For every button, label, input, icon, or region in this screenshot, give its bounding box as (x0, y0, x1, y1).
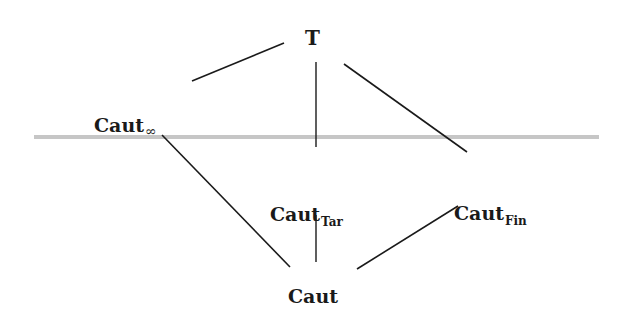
node-caut-label: Caut (288, 285, 338, 307)
node-caut-infinity: Caut∞ (94, 116, 157, 135)
node-caut-infinity-subscript: ∞ (145, 123, 157, 139)
node-caut-fin: CautFin (454, 204, 527, 223)
edge-caut-fin-caut (357, 206, 458, 269)
node-caut-tar-label: Caut (270, 203, 320, 225)
node-top-label: T (305, 26, 320, 50)
node-caut-fin-subscript: Fin (505, 214, 527, 228)
edge-caut-inf-caut (162, 135, 290, 267)
node-caut-tar: CautTar (270, 205, 343, 224)
node-caut-tar-subscript: Tar (321, 215, 343, 229)
node-caut-fin-label: Caut (454, 202, 504, 224)
edge-top-caut-inf (192, 43, 284, 81)
node-top: T (305, 28, 320, 48)
node-caut: Caut (288, 287, 338, 306)
node-caut-infinity-label: Caut (94, 114, 144, 136)
